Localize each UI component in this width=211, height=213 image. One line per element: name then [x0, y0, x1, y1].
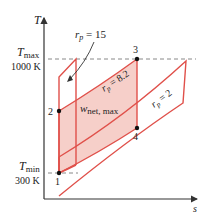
point-4-marker	[135, 126, 139, 130]
point-2-marker	[57, 109, 61, 113]
point-3-marker	[135, 57, 139, 61]
tmax-label: Tmax	[17, 45, 40, 60]
y-axis-label: T	[34, 13, 42, 27]
rp15-pointer-arrow	[70, 42, 94, 79]
ts-diagram: T s Tmax 1000 K Tmin 300 K 1 2 3 4 rp = …	[0, 0, 211, 213]
x-axis-label: s	[193, 203, 197, 213]
point-4-label: 4	[133, 131, 138, 142]
point-1-label: 1	[55, 176, 60, 187]
point-2-label: 2	[48, 106, 53, 117]
rp-15-label: rp = 15	[75, 28, 106, 42]
point-3-label: 3	[133, 44, 138, 55]
tmin-label: Tmin	[19, 159, 40, 174]
tmax-value: 1000 K	[11, 61, 42, 72]
tmin-value: 300 K	[15, 175, 41, 186]
point-1-marker	[57, 171, 61, 175]
